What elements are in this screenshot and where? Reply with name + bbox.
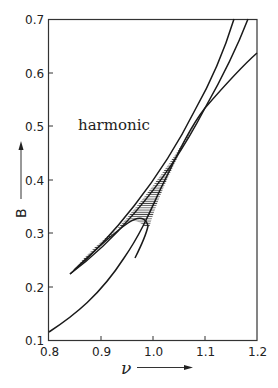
- x-tick-label: 1.0: [144, 345, 163, 359]
- harmonic-annotation: harmonic: [78, 116, 150, 134]
- y-tick-label: 0.5: [25, 120, 44, 134]
- chart: 0.7 0.6 0.5 0.4 0.3 0.2 0.1 0.8 0.9 1.0 …: [0, 0, 278, 388]
- x-tick-label: 0.8: [40, 345, 59, 359]
- y-axis-ticks: [49, 73, 54, 287]
- y-axis-label: B: [13, 208, 29, 218]
- y-tick-label: 0.4: [25, 174, 44, 188]
- inner-upper-curve: [70, 19, 248, 274]
- y-tick-label: 0.3: [25, 227, 44, 241]
- y-tick-label: 0.6: [25, 67, 44, 81]
- arrow-head-right-icon: [184, 365, 193, 370]
- y-tick-label: 0.2: [25, 281, 44, 295]
- x-axis-ticks: [101, 336, 205, 341]
- y-tick-label: 0.7: [25, 13, 44, 27]
- x-axis-label: ν: [121, 358, 131, 378]
- x-tick-label: 0.9: [92, 345, 111, 359]
- x-tick-label: 1.1: [196, 345, 215, 359]
- x-tick-label: 1.2: [248, 345, 267, 359]
- arrow-head-up-icon: [19, 141, 24, 150]
- outer-upper-curve: [70, 19, 234, 274]
- x-axis-label-group: ν: [121, 358, 193, 378]
